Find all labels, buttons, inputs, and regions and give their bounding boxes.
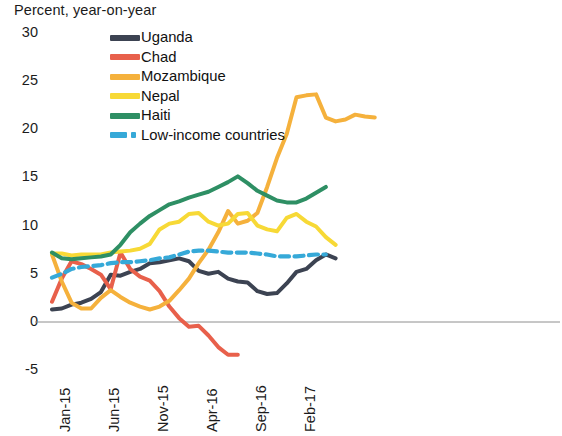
legend-swatch-nepal [110,93,140,99]
legend-swatch-mozambique [110,74,140,80]
legend-item[interactable]: Haiti [110,106,285,126]
legend-swatch-uganda [110,35,140,41]
legend-swatch-chad [110,54,140,60]
legend-item[interactable]: Mozambique [110,67,285,87]
legend-label: Nepal [141,89,180,104]
legend-swatch-low-income-countries [110,132,140,138]
line-chart: Percent, year-on-year 302520151050-5 Jan… [0,0,562,436]
legend-item[interactable]: Nepal [110,87,285,107]
legend-label: Low-income countries [141,128,285,143]
legend-label: Haiti [141,108,171,123]
legend-swatch-haiti [110,113,140,119]
legend-label: Uganda [141,30,193,45]
chart-legend: UgandaChadMozambiqueNepalHaitiLow-income… [110,28,285,145]
legend-item[interactable]: Low-income countries [110,126,285,146]
legend-item[interactable]: Chad [110,48,285,68]
legend-label: Mozambique [141,69,226,84]
series-line-uganda [52,254,336,309]
legend-label: Chad [141,50,176,65]
legend-item[interactable]: Uganda [110,28,285,48]
